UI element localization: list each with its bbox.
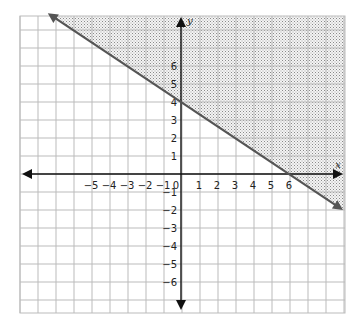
x-axis-left-arrow-icon	[22, 169, 32, 179]
y-tick-label: 1	[171, 151, 177, 162]
y-tick-label: −3	[162, 223, 177, 234]
y-tick-label: −4	[162, 241, 177, 252]
x-axis-label: x	[335, 159, 341, 170]
x-tick-label: 3	[232, 180, 238, 191]
y-axis-label: y	[186, 15, 193, 26]
x-tick-label: −2	[138, 180, 153, 191]
y-tick-label: −5	[162, 259, 177, 270]
x-tick-label: 6	[286, 180, 292, 191]
y-tick-label: 5	[171, 79, 177, 90]
x-tick-label: 4	[250, 180, 256, 191]
x-tick-label: −4	[102, 180, 117, 191]
x-tick-label: −5	[84, 180, 99, 191]
y-tick-label: 3	[171, 115, 177, 126]
x-tick-label: 2	[214, 180, 220, 191]
inequality-graph: xy −5−4−3−2−10123456654321−1−2−3−4−5−6	[0, 0, 358, 327]
y-tick-label: −2	[162, 205, 177, 216]
y-tick-label: −1	[162, 187, 177, 198]
x-tick-label: −3	[120, 180, 135, 191]
y-axis-down-arrow-icon	[176, 300, 186, 310]
y-tick-label: 2	[171, 133, 177, 144]
y-tick-label: 6	[171, 61, 177, 72]
x-tick-label: 1	[196, 180, 202, 191]
y-tick-label: −6	[162, 277, 177, 288]
x-tick-label: 5	[268, 180, 274, 191]
